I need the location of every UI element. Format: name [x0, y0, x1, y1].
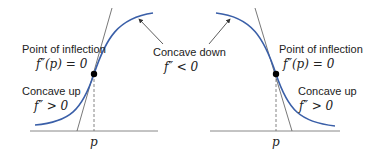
arrow-to-right-curve	[209, 19, 230, 44]
right-inflection-math: f″(p) = 0	[282, 57, 335, 71]
right-inflection-point	[273, 71, 279, 77]
inflection-diagram: Point of inflection f″(p) = 0 Concave up…	[0, 0, 371, 154]
concave-down-annotation: Concave down f″ < 0	[139, 19, 230, 74]
right-concave-up-label: Concave up	[298, 85, 357, 97]
right-inflection-label: Point of inflection	[279, 43, 363, 55]
right-concave-up-math: f″ > 0	[298, 99, 334, 113]
left-inflection-math: f″(p) = 0	[35, 57, 88, 71]
left-inflection-label: Point of inflection	[22, 43, 106, 55]
left-graph: Point of inflection f″(p) = 0 Concave up…	[22, 8, 158, 149]
concave-down-label: Concave down	[153, 46, 226, 58]
left-concave-up-label: Concave up	[22, 85, 81, 97]
arrow-to-left-curve	[139, 19, 163, 44]
left-inflection-point	[91, 71, 97, 77]
right-p-label: p	[272, 135, 280, 149]
concave-down-math: f″ < 0	[163, 60, 199, 74]
left-p-label: p	[90, 135, 98, 149]
left-concave-up-math: f″ > 0	[33, 99, 69, 113]
right-graph: Point of inflection f″(p) = 0 Concave up…	[210, 8, 363, 149]
